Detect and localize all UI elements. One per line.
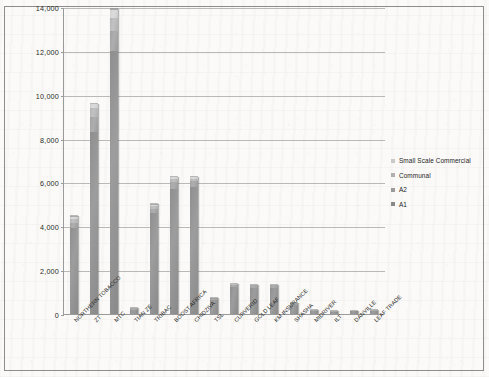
stacked-bar[interactable]	[110, 9, 118, 314]
stacked-bar[interactable]	[70, 216, 78, 314]
bar-segment	[150, 213, 158, 314]
bar-segment	[90, 132, 98, 314]
legend-label: A1	[399, 201, 407, 208]
x-axis-category-label: ZT	[93, 314, 102, 323]
bar-segment	[90, 108, 98, 117]
legend-swatch-icon	[391, 159, 395, 163]
legend-label: Small Scale Commercial	[399, 157, 471, 164]
bar-slot	[224, 7, 244, 314]
bar-slot	[124, 7, 144, 314]
bar-slot	[344, 7, 364, 314]
bar-slot	[204, 7, 224, 314]
chart-legend: Small Scale CommercialCommunalA2A1	[391, 157, 471, 208]
y-axis-tick-label: 2,000	[40, 267, 59, 276]
bar-segment	[90, 117, 98, 132]
bar-segment	[230, 287, 238, 314]
bar-slot	[324, 7, 344, 314]
legend-swatch-icon	[391, 188, 395, 192]
bar-segment	[110, 18, 118, 31]
y-axis-tick-label: 6,000	[40, 179, 59, 188]
bar-segment	[170, 189, 178, 314]
legend-item[interactable]: A1	[391, 201, 471, 208]
scanned-chart-page: 02,0004,0006,0008,00010,00012,00014,000 …	[0, 0, 489, 377]
legend-item[interactable]: Small Scale Commercial	[391, 157, 471, 164]
y-axis-tick-label: 14,000	[36, 4, 59, 13]
bar-segment	[110, 9, 118, 18]
legend-label: Communal	[399, 172, 431, 179]
bar-slot	[64, 7, 84, 314]
bar-segment	[70, 228, 78, 314]
bar-slot	[84, 7, 104, 314]
bar-slot	[144, 7, 164, 314]
bar-segment	[110, 31, 118, 51]
stacked-bar[interactable]	[150, 204, 158, 314]
legend-label: A2	[399, 186, 407, 193]
bar-slot	[284, 7, 304, 314]
legend-swatch-icon	[391, 173, 395, 177]
y-axis-tick-label: 10,000	[36, 91, 59, 100]
chart-plot-area: 02,0004,0006,0008,00010,00012,00014,000 …	[63, 8, 383, 315]
bar-slot	[364, 7, 384, 314]
y-axis-tick-label: 8,000	[40, 135, 59, 144]
y-axis-tick-label: 0	[55, 311, 59, 320]
stacked-bar[interactable]	[170, 177, 178, 314]
y-axis-tick-mark	[61, 315, 64, 316]
x-axis-category-label: ILT	[333, 313, 343, 323]
bars-group	[64, 8, 383, 314]
y-axis-tick-label: 4,000	[40, 223, 59, 232]
legend-item[interactable]: Communal	[391, 172, 471, 179]
bar-slot	[184, 7, 204, 314]
legend-swatch-icon	[391, 202, 395, 206]
bar-segment	[170, 182, 178, 189]
y-axis-tick-label: 12,000	[36, 47, 59, 56]
legend-item[interactable]: A2	[391, 186, 471, 193]
stacked-bar[interactable]	[230, 284, 238, 314]
bar-slot	[264, 7, 284, 314]
bar-slot	[164, 7, 184, 314]
bar-slot	[304, 7, 324, 314]
bar-slot	[104, 7, 124, 314]
stacked-bar[interactable]	[90, 104, 98, 314]
bar-slot	[244, 7, 264, 314]
